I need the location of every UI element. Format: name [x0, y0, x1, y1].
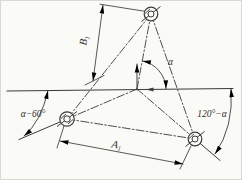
hole-top — [142, 7, 161, 22]
centerline-left-right — [67, 119, 195, 139]
diagram-canvas: α α−60° 120°−α B1 A1 — [0, 0, 242, 180]
angle-arc-alpha — [143, 61, 167, 89]
linkage-diagram: α α−60° 120°−α B1 A1 — [0, 0, 242, 180]
a1-extension-line-left — [57, 126, 64, 148]
label-dimension-a1: A1 — [110, 138, 123, 152]
label-angle-alpha-minus-60: α−60° — [21, 109, 46, 119]
a1-extension-line-right — [180, 146, 191, 169]
dimension-a1-group — [57, 126, 191, 169]
horizontal-direction-arrow — [146, 88, 154, 92]
radius-to-left-hole — [67, 89, 137, 119]
b1-dimension-line — [93, 5, 103, 81]
hole-symbols — [57, 7, 205, 147]
radius-centerlines — [67, 14, 195, 139]
hole-left — [57, 112, 77, 127]
hole-triangle-centerlines — [67, 14, 195, 139]
label-dimension-b1: B1 — [77, 35, 90, 46]
label-angle-120-minus-alpha: 120°−α — [197, 109, 227, 119]
centerline-top-left — [67, 14, 151, 119]
label-angle-alpha: α — [168, 57, 174, 67]
angle-arc-120-minus-alpha — [215, 89, 231, 154]
radius-to-top-hole — [137, 14, 151, 89]
horizontal-reference-line — [7, 89, 233, 92]
b1-extension-line-bottom — [85, 76, 104, 86]
b1-extension-line-top — [100, 4, 146, 11]
left-hole-line-extension — [19, 119, 67, 140]
